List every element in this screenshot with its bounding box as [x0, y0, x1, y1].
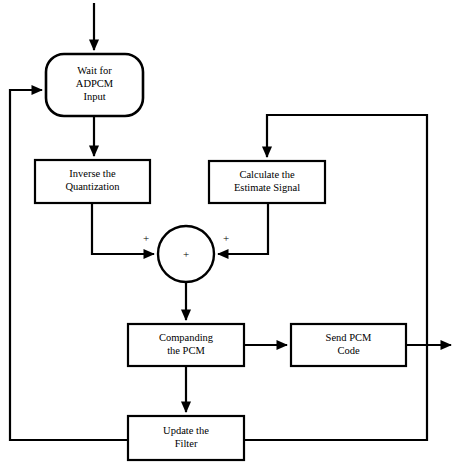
inverse-the-quantization-label-line-1: Inverse the	[69, 168, 116, 179]
wait-for-adpcm-input-label-line-3: Input	[83, 91, 105, 102]
wait-for-adpcm-input-label-line-2: ADPCM	[76, 78, 114, 89]
wait-for-adpcm-input-label-line-1: Wait for	[77, 65, 112, 76]
update-the-filter-label-line-2: Filter	[175, 438, 198, 449]
send-pcm-code-label-line-1: Send PCM	[326, 332, 372, 343]
plus-sign-center: +	[183, 248, 189, 260]
node-wait-for-adpcm-input: Wait forADPCMInput	[46, 54, 143, 116]
calculate-the-estimate-signal-label-line-1: Calculate the	[239, 169, 294, 180]
edge-update-feedback-to-wait	[10, 90, 128, 440]
inverse-the-quantization-label-line-2: Quantization	[65, 181, 120, 192]
send-pcm-code-label-line-2: Code	[337, 345, 360, 356]
plus-sign-left-input: +	[143, 232, 149, 244]
node-update-the-filter: Update theFilter	[128, 416, 244, 460]
node-companding-the-pcm: Compandingthe PCM	[128, 324, 244, 366]
calculate-the-estimate-signal-label-line-2: Estimate Signal	[234, 182, 300, 193]
node-inverse-the-quantization: Inverse theQuantization	[35, 160, 150, 203]
flowchart-canvas: Wait forADPCMInputInverse theQuantizatio…	[0, 0, 455, 470]
edge-inverse-to-sum	[92, 203, 154, 254]
node-send-pcm-code: Send PCMCode	[291, 324, 406, 366]
flowchart-diagram: Wait forADPCMInputInverse theQuantizatio…	[0, 0, 455, 470]
edge-calculate-to-sum	[218, 203, 268, 254]
companding-the-pcm-label-line-1: Companding	[159, 332, 214, 343]
companding-the-pcm-label-line-2: the PCM	[167, 345, 205, 356]
update-the-filter-label-line-1: Update the	[163, 425, 209, 436]
node-calculate-the-estimate-signal: Calculate theEstimate Signal	[209, 161, 325, 203]
plus-sign-right-input: +	[223, 232, 229, 244]
